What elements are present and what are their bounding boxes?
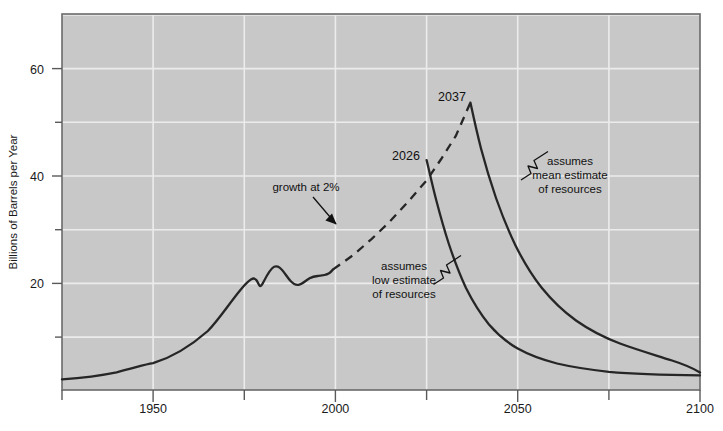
y-axis-title: Billions of Barrels per Year [7, 134, 19, 269]
low-estimate-line2: low estimate [372, 274, 436, 286]
xtick-label-1950: 1950 [139, 402, 167, 416]
low-estimate-line3: of resources [372, 288, 436, 300]
xtick-label-2000: 2000 [321, 402, 349, 416]
xtick-label-2100: 2100 [686, 402, 714, 416]
ytick-label-20: 20 [30, 277, 44, 291]
mean-estimate-line2: mean estimate [532, 169, 607, 181]
peak-label-2026: 2026 [392, 149, 420, 163]
mean-estimate-line3: of resources [538, 183, 602, 195]
low-estimate-line1: assumes [381, 260, 427, 272]
ytick-label-60: 60 [30, 63, 44, 77]
peak-label-2037: 2037 [438, 90, 466, 104]
x-axis-ticks [62, 390, 700, 402]
chart-figure: 1950 2000 2050 2100 60 40 20 Billions of… [0, 0, 723, 431]
growth-annotation-label: growth at 2% [272, 181, 339, 193]
ytick-label-40: 40 [30, 170, 44, 184]
plot-background [62, 14, 700, 390]
y-axis-ticks [52, 69, 62, 338]
oil-production-chart: 1950 2000 2050 2100 60 40 20 Billions of… [0, 0, 723, 431]
mean-estimate-line1: assumes [547, 155, 593, 167]
xtick-label-2050: 2050 [504, 402, 532, 416]
